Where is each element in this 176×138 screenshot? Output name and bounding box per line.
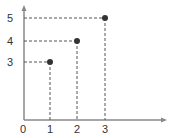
data-point-1-3: [47, 59, 53, 65]
y-tick-3: 3: [7, 56, 13, 68]
chart: 5 4 3 0 1 2 3: [0, 0, 176, 138]
y-tick-5: 5: [7, 12, 13, 24]
y-axis-arrow-icon: [22, 5, 27, 11]
data-point-3-5: [102, 15, 108, 21]
x-tick-1: 1: [47, 123, 53, 135]
x-tick-0: 0: [20, 123, 26, 135]
y-tick-4: 4: [7, 35, 13, 47]
x-tick-2: 2: [74, 123, 80, 135]
x-axis-arrow-icon: [161, 118, 167, 123]
data-point-2-4: [74, 38, 80, 44]
x-tick-3: 3: [102, 123, 108, 135]
